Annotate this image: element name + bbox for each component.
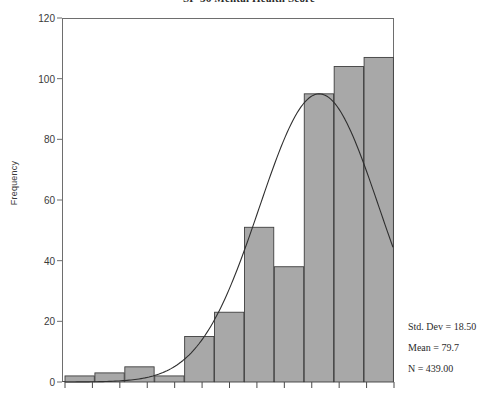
x-tick-marks: [65, 382, 394, 388]
statistics-annotations: Std. Dev = 18.50 Mean = 79.7 N = 439.00: [408, 316, 498, 379]
histogram-chart: SF-36 Mental Health Score 02040608010012…: [0, 0, 498, 397]
bars-group: [65, 57, 393, 382]
sample-size-annotation: N = 439.00: [408, 358, 498, 379]
histogram-bar: [65, 376, 94, 382]
y-tick-label: 20: [19, 316, 55, 327]
y-axis-title: Frequency: [9, 138, 19, 228]
histogram-bar: [274, 267, 303, 382]
y-tick-label: 80: [19, 134, 55, 145]
histogram-bar: [244, 227, 273, 382]
std-dev-annotation: Std. Dev = 18.50: [408, 316, 498, 337]
histogram-bar: [155, 376, 184, 382]
chart-title: SF-36 Mental Health Score: [0, 0, 498, 4]
plot-canvas: [62, 18, 394, 382]
y-tick-label: 40: [19, 255, 55, 266]
histogram-bar: [334, 67, 363, 382]
mean-annotation: Mean = 79.7: [408, 337, 498, 358]
y-tick-label: 60: [19, 195, 55, 206]
y-tick-label: 0: [19, 377, 55, 388]
y-tick-label: 120: [19, 13, 55, 24]
histogram-bar: [215, 312, 244, 382]
y-tick-label: 100: [19, 73, 55, 84]
histogram-bar: [364, 57, 393, 382]
histogram-bar: [304, 94, 333, 382]
